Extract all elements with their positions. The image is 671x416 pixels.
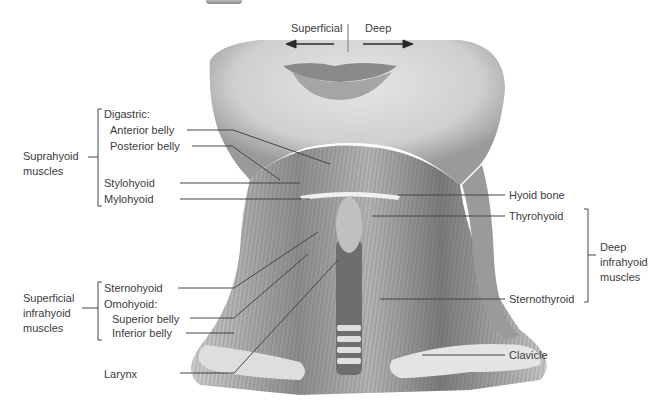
- neck-anatomy-illustration: [0, 0, 671, 416]
- label-omohyoid: Omohyoid:: [104, 298, 157, 311]
- label-anterior-belly: Anterior belly: [110, 124, 174, 137]
- label-stylohyoid: Stylohyoid: [104, 177, 155, 190]
- label-thyrohyoid: Thyrohyoid: [509, 210, 563, 223]
- label-superior-belly: Superior belly: [112, 313, 179, 326]
- deep-direction-label: Deep: [365, 22, 391, 35]
- label-clavicle: Clavicle: [509, 349, 548, 362]
- thyroid-cartilage: [336, 197, 362, 253]
- suprahyoid-group-label: Suprahyoid muscles: [23, 149, 83, 179]
- label-sternothyroid: Sternothyroid: [509, 293, 574, 306]
- superficial-direction-label: Superficial: [291, 22, 342, 35]
- bracket-suprahyoid: [98, 109, 102, 206]
- bracket-deep-infrahyoid: [584, 209, 588, 302]
- deep-infrahyoid-group-label: Deep infrahyoid muscles: [600, 240, 660, 285]
- label-larynx: Larynx: [104, 368, 137, 381]
- superficial-infrahyoid-group-label: Superficial infrahyoid muscles: [23, 291, 83, 336]
- label-posterior-belly: Posterior belly: [110, 140, 180, 153]
- label-sternohyoid: Sternohyoid: [104, 282, 163, 295]
- label-inferior-belly: Inferior belly: [112, 327, 172, 340]
- label-digastric: Digastric:: [104, 108, 150, 121]
- label-hyoid-bone: Hyoid bone: [509, 189, 565, 202]
- label-mylohyoid: Mylohyoid: [104, 193, 154, 206]
